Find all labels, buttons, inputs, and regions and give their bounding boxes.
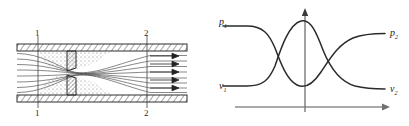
pipe-wall-top [17,44,187,51]
svg-text:p2: p2 [389,27,398,40]
svg-text:v2: v2 [390,83,397,96]
orifice-plate-upper [67,51,76,71]
flow-arrow [150,61,179,67]
flow-arrow [150,69,179,75]
flow-arrow [150,85,179,91]
flow-arrow-group [150,53,179,91]
pipe-wall-bottom [17,95,187,102]
section-label-top-left: 1 [35,28,40,38]
figure-root: 1 2 1 2 [0,0,409,126]
orifice-plate-lower [67,75,76,95]
svg-text:v1: v1 [219,80,226,93]
pressure-velocity-graph: p1 v1 p2 v2 [205,0,409,126]
orifice-plate-diagram: 1 2 1 2 [0,0,205,126]
p2-label: p2 [389,27,398,40]
v1-label: v1 [219,80,226,93]
velocity-curve [223,21,385,89]
section-label-bottom-left: 1 [35,108,40,118]
section-label-bottom-right: 2 [144,108,149,118]
y-axis [302,8,308,112]
v2-label: v2 [390,83,397,96]
x-axis [235,104,390,111]
flow-arrow [150,53,179,59]
svg-text:p1: p1 [218,16,227,29]
pressure-curve [223,26,385,86]
section-label-top-right: 2 [144,28,149,38]
streamlines [17,54,187,93]
p1-label: p1 [218,16,227,29]
